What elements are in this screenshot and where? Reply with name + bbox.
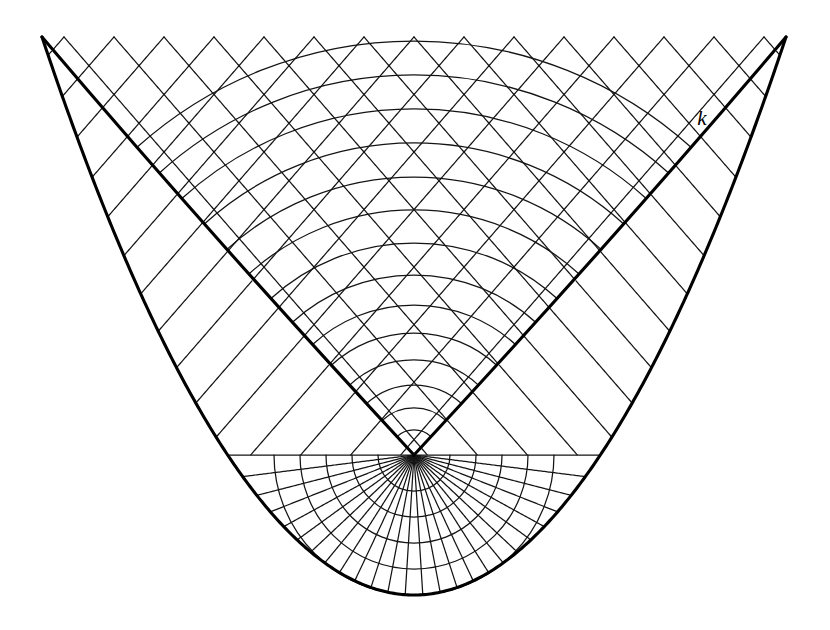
ray-line-outer — [576, 281, 652, 368]
lower-wavefront-group — [274, 455, 554, 595]
ray-line-outer — [196, 309, 278, 403]
radial-ray — [414, 455, 503, 563]
ray-line-outer — [701, 137, 736, 177]
ray-line-outer — [108, 166, 152, 217]
caustic-edge-right — [414, 37, 786, 455]
caustic-figure: k — [0, 0, 830, 630]
radial-ray — [355, 455, 414, 580]
caustic-diagram-svg: k — [0, 0, 830, 630]
ray-line-outer — [500, 365, 578, 454]
wavefront-arc-group — [137, 41, 691, 437]
ray-line-outer — [422, 449, 427, 455]
outer-envelope-curve — [42, 37, 786, 595]
ray-line — [52, 37, 64, 50]
ray-line — [614, 37, 700, 136]
radial-ray — [414, 455, 473, 580]
wavefront-arc — [271, 243, 557, 299]
radial-ray — [414, 455, 571, 495]
ray-line-outer — [474, 393, 528, 455]
ray-line — [202, 37, 364, 223]
ray-line — [714, 37, 750, 78]
ray-line — [764, 37, 776, 50]
ray-line-outer — [401, 449, 406, 455]
ray-line-outer — [159, 252, 227, 330]
wavefront-arc — [292, 275, 535, 322]
caustic-label-k: k — [697, 106, 707, 130]
ray-family-left-group — [48, 37, 764, 455]
ray-line — [514, 37, 650, 194]
wavefront-arc — [249, 210, 579, 274]
radial-ray — [257, 455, 414, 495]
ray-line-outer — [751, 79, 766, 96]
ray-line-outer — [652, 195, 704, 255]
ray-line-outer — [176, 281, 252, 368]
ray-line-outer — [524, 336, 611, 436]
ray-line-outer — [676, 166, 720, 217]
caustic-edge-left — [42, 37, 414, 455]
wavefront-arc — [397, 430, 431, 437]
ray-line-outer — [448, 421, 477, 455]
ray-line — [178, 37, 314, 194]
ray-line — [314, 37, 549, 307]
ray-line-outer — [63, 79, 78, 96]
caustic-edge-group — [42, 37, 786, 455]
ray-line-outer — [77, 108, 102, 137]
ray-line-outer — [351, 421, 380, 455]
ray-line — [103, 37, 164, 107]
ray-line-outer — [626, 223, 687, 293]
ray-line-outer — [301, 393, 355, 455]
ray-line-outer — [550, 309, 632, 403]
ray-line-outer — [92, 137, 127, 177]
ray-line-outer — [124, 195, 176, 255]
ray-line-outer — [217, 336, 304, 436]
label-group: k — [697, 106, 707, 130]
ray-family-right-group — [64, 37, 780, 455]
ray-line — [128, 37, 214, 136]
ray-line — [464, 37, 626, 223]
ray-line-outer — [601, 252, 669, 330]
ray-line-outer — [726, 108, 751, 137]
ray-line-outer — [141, 223, 202, 293]
radial-ray — [325, 455, 414, 563]
ray-line — [664, 37, 725, 107]
lower-wavefront-arc — [274, 455, 554, 595]
outer-envelope-group — [42, 37, 786, 595]
wavefront-arc — [182, 109, 646, 198]
ray-line-outer — [251, 365, 329, 454]
ray-line — [78, 37, 114, 78]
